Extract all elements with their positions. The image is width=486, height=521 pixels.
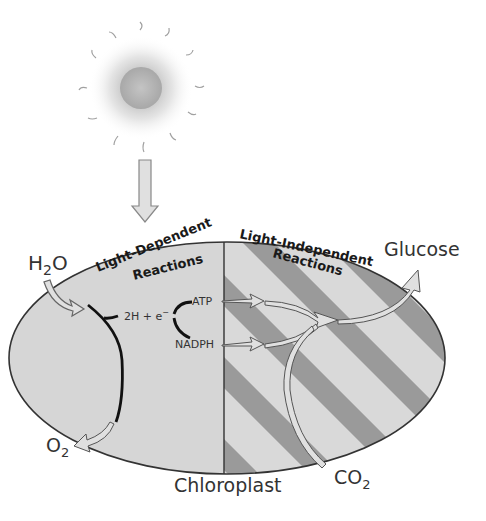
water-label: H2O (28, 251, 68, 278)
electrons-label: 2H + e− (124, 308, 169, 323)
sun-icon (79, 22, 204, 152)
light-arrow-icon (132, 160, 158, 222)
chloroplast (0, 230, 486, 490)
glucose-label: Glucose (384, 238, 460, 260)
carbon-dioxide-label: CO2 (334, 466, 371, 492)
atp-label: ATP (192, 295, 212, 308)
chloroplast-label: Chloroplast (174, 474, 282, 496)
oxygen-label: O2 (46, 434, 69, 460)
light-independent-region (224, 230, 486, 490)
photosynthesis-diagram: Light-Dependent Reactions Light-Independ… (0, 0, 486, 521)
nadph-label: NADPH (175, 338, 214, 351)
